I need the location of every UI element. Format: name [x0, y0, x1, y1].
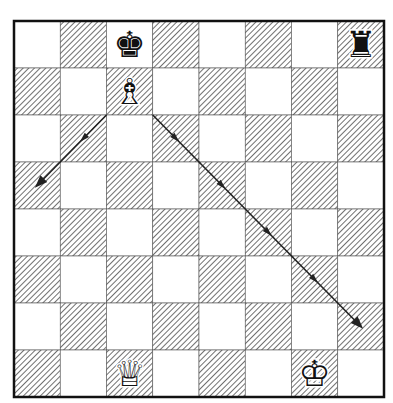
square-b5[interactable]	[60, 162, 106, 209]
square-f8[interactable]	[245, 21, 291, 68]
square-a7[interactable]	[14, 68, 60, 115]
square-e7[interactable]	[199, 68, 245, 115]
square-b3[interactable]	[60, 256, 106, 303]
square-h7[interactable]	[338, 68, 384, 115]
square-a6[interactable]	[14, 115, 60, 162]
square-e2[interactable]	[199, 303, 245, 350]
square-f2[interactable]	[245, 303, 291, 350]
square-h3[interactable]	[338, 256, 384, 303]
black-king-icon[interactable]: ♚	[113, 24, 145, 65]
black-rook-icon[interactable]: ♜	[345, 24, 377, 65]
square-g5[interactable]	[292, 162, 338, 209]
square-e6[interactable]	[199, 115, 245, 162]
square-g7[interactable]	[292, 68, 338, 115]
square-h1[interactable]	[338, 350, 384, 397]
square-d1[interactable]	[153, 350, 199, 397]
square-c2[interactable]	[107, 303, 153, 350]
square-a8[interactable]	[14, 21, 60, 68]
square-b4[interactable]	[60, 209, 106, 256]
square-f7[interactable]	[245, 68, 291, 115]
square-f3[interactable]	[245, 256, 291, 303]
board-squares	[14, 21, 384, 397]
white-king-icon[interactable]: ♔	[298, 353, 330, 394]
square-g2[interactable]	[292, 303, 338, 350]
square-f6[interactable]	[245, 115, 291, 162]
square-d5[interactable]	[153, 162, 199, 209]
square-c4[interactable]	[107, 209, 153, 256]
square-b1[interactable]	[60, 350, 106, 397]
chess-board: ♚♚♜♜♗♗♕♕♔♔	[0, 0, 393, 403]
square-h6[interactable]	[338, 115, 384, 162]
square-d8[interactable]	[153, 21, 199, 68]
square-g4[interactable]	[292, 209, 338, 256]
square-h4[interactable]	[338, 209, 384, 256]
square-f1[interactable]	[245, 350, 291, 397]
square-h5[interactable]	[338, 162, 384, 209]
square-a4[interactable]	[14, 209, 60, 256]
square-e4[interactable]	[199, 209, 245, 256]
square-d2[interactable]	[153, 303, 199, 350]
white-bishop-icon[interactable]: ♗	[113, 71, 145, 112]
square-b8[interactable]	[60, 21, 106, 68]
square-d3[interactable]	[153, 256, 199, 303]
square-e3[interactable]	[199, 256, 245, 303]
square-c5[interactable]	[107, 162, 153, 209]
square-b7[interactable]	[60, 68, 106, 115]
square-c6[interactable]	[107, 115, 153, 162]
square-e8[interactable]	[199, 21, 245, 68]
square-a1[interactable]	[14, 350, 60, 397]
square-b2[interactable]	[60, 303, 106, 350]
square-d4[interactable]	[153, 209, 199, 256]
square-a3[interactable]	[14, 256, 60, 303]
square-g8[interactable]	[292, 21, 338, 68]
square-g6[interactable]	[292, 115, 338, 162]
square-a2[interactable]	[14, 303, 60, 350]
square-d7[interactable]	[153, 68, 199, 115]
square-f5[interactable]	[245, 162, 291, 209]
square-e1[interactable]	[199, 350, 245, 397]
square-c3[interactable]	[107, 256, 153, 303]
white-queen-icon[interactable]: ♕	[113, 353, 145, 394]
